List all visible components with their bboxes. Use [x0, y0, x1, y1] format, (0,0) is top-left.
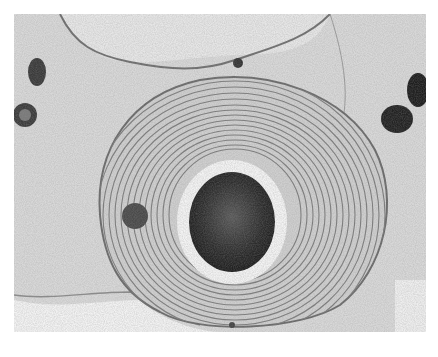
micrograph — [14, 14, 426, 332]
grain-texture — [14, 14, 426, 332]
